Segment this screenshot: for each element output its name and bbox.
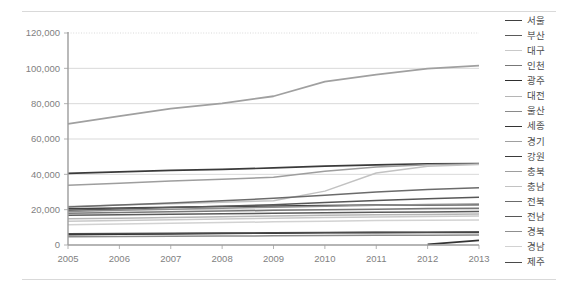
legend-swatch-line-icon	[505, 186, 522, 187]
legend-swatch-line-icon	[505, 141, 522, 142]
legend-item-label: 광주	[527, 76, 545, 86]
legend-swatch-line-icon	[505, 20, 522, 21]
legend-swatch-line-icon	[505, 80, 522, 81]
legend-item-label: 충북	[527, 167, 545, 177]
chart-legend: 서울부산대구인천광주대전울산세종경기강원충북충남전북전남경북경남제주	[505, 13, 575, 270]
series-line-세종	[428, 240, 479, 244]
legend-swatch-line-icon	[505, 201, 522, 202]
legend-swatch-line-icon	[505, 262, 522, 263]
legend-item-label: 인천	[527, 61, 545, 71]
legend-swatch-line-icon	[505, 156, 522, 157]
legend-swatch-line-icon	[505, 35, 522, 36]
y-axis-label: 80,000	[31, 98, 60, 109]
legend-item-label: 경북	[527, 227, 545, 237]
legend-item-label: 전북	[527, 197, 545, 207]
y-axis-label: 100,000	[26, 63, 60, 74]
legend-item-label: 경기	[527, 137, 545, 147]
y-axis-label: 60,000	[31, 133, 60, 144]
x-axis-label: 2007	[160, 253, 181, 264]
x-axis-label: 2006	[109, 253, 130, 264]
legend-swatch-line-icon	[505, 96, 522, 97]
legend-swatch-line-icon	[505, 231, 522, 232]
x-axis-label: 2012	[417, 253, 438, 264]
legend-item-부산[interactable]: 부산	[505, 28, 575, 43]
legend-item-인천[interactable]: 인천	[505, 58, 575, 73]
legend-item-label: 서울	[527, 16, 545, 26]
legend-item-label: 전남	[527, 212, 545, 222]
legend-item-label: 강원	[527, 152, 545, 162]
legend-item-label: 경남	[527, 242, 545, 252]
legend-swatch-line-icon	[505, 111, 522, 112]
x-axis-label: 2010	[314, 253, 335, 264]
chart-canvas: 020,00040,00060,00080,000100,000120,000 …	[0, 0, 500, 293]
x-axis-label: 2013	[468, 253, 489, 264]
series-lines-group	[68, 66, 479, 245]
legend-item-경남[interactable]: 경남	[505, 239, 575, 254]
legend-item-label: 세종	[527, 121, 545, 131]
legend-item-광주[interactable]: 광주	[505, 73, 575, 88]
x-axis-label: 2009	[263, 253, 284, 264]
x-axis-label: 2005	[57, 253, 78, 264]
legend-item-대전[interactable]: 대전	[505, 88, 575, 103]
legend-item-울산[interactable]: 울산	[505, 104, 575, 119]
y-axis-label: 40,000	[31, 169, 60, 180]
x-axis-labels-group: 200520062007200820092010201120122013	[57, 253, 489, 264]
legend-item-label: 제주	[527, 257, 545, 267]
legend-item-전남[interactable]: 전남	[505, 209, 575, 224]
legend-item-label: 충남	[527, 182, 545, 192]
series-line-울산	[68, 235, 479, 237]
legend-item-경기[interactable]: 경기	[505, 134, 575, 149]
y-axis-label: 120,000	[26, 27, 60, 38]
y-axis-label: 20,000	[31, 204, 60, 215]
legend-item-전북[interactable]: 전북	[505, 194, 575, 209]
x-axis-label: 2008	[212, 253, 233, 264]
legend-item-대구[interactable]: 대구	[505, 43, 575, 58]
y-axis-label: 0	[55, 239, 60, 250]
legend-item-label: 울산	[527, 106, 545, 116]
line-chart: 020,00040,00060,00080,000100,000120,000 …	[0, 0, 500, 293]
legend-swatch-line-icon	[505, 126, 522, 127]
x-axis-label: 2011	[366, 253, 386, 264]
legend-item-제주[interactable]: 제주	[505, 255, 575, 270]
legend-item-세종[interactable]: 세종	[505, 119, 575, 134]
legend-item-서울[interactable]: 서울	[505, 13, 575, 28]
chart-screenshot: 020,00040,00060,00080,000100,000120,000 …	[0, 0, 578, 293]
series-line-경기	[68, 66, 479, 124]
legend-swatch-line-icon	[505, 50, 522, 51]
legend-item-강원[interactable]: 강원	[505, 149, 575, 164]
legend-item-label: 대구	[527, 46, 545, 56]
legend-item-경북[interactable]: 경북	[505, 224, 575, 239]
y-axis-labels-group: 020,00040,00060,00080,000100,000120,000	[26, 27, 60, 250]
legend-item-충북[interactable]: 충북	[505, 164, 575, 179]
legend-swatch-line-icon	[505, 216, 522, 217]
legend-item-충남[interactable]: 충남	[505, 179, 575, 194]
legend-swatch-line-icon	[505, 65, 522, 66]
legend-swatch-line-icon	[505, 246, 522, 247]
legend-item-label: 대전	[527, 91, 545, 101]
legend-swatch-line-icon	[505, 171, 522, 172]
legend-item-label: 부산	[527, 31, 545, 41]
